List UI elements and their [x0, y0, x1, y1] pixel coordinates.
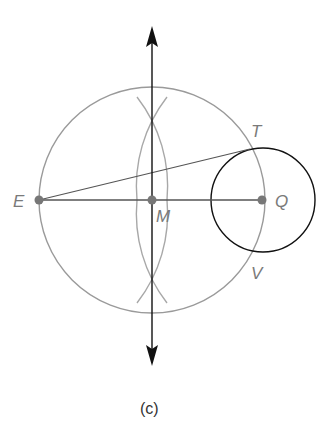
geometry-diagram: E M Q T V (c) — [0, 0, 327, 430]
figure-caption: (c) — [140, 400, 159, 417]
point-m — [148, 196, 157, 205]
label-q: Q — [275, 192, 288, 211]
point-e — [35, 196, 44, 205]
label-v: V — [251, 264, 264, 283]
point-q — [258, 196, 267, 205]
label-t: T — [251, 122, 263, 141]
label-e: E — [13, 192, 25, 211]
label-m: M — [156, 207, 171, 226]
